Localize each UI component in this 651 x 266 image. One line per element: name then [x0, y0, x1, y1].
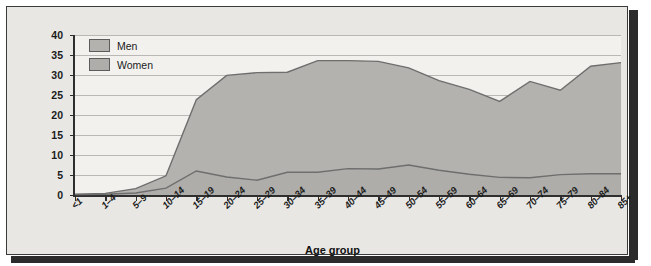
chart-legend: Men Women — [89, 39, 153, 77]
y-tick-label: 10 — [37, 149, 63, 161]
x-axis-title: Age group — [7, 244, 651, 256]
panel-shadow-bottom — [11, 256, 635, 263]
legend-label-women: Women — [117, 59, 153, 71]
y-tick-label: 35 — [37, 49, 63, 61]
chart-panel: Rates per 100,000 0510152025303540 <11–4… — [6, 6, 628, 255]
panel-shadow-right — [629, 10, 638, 260]
series-layer — [75, 35, 621, 195]
y-tick-label: 15 — [37, 129, 63, 141]
chart-figure: Rates per 100,000 0510152025303540 <11–4… — [0, 0, 651, 266]
y-tick-label: 0 — [37, 189, 63, 201]
y-tick-label: 40 — [37, 29, 63, 41]
plot-area — [73, 35, 621, 197]
legend-item-men[interactable]: Men — [89, 39, 153, 52]
y-tick-label: 30 — [37, 69, 63, 81]
legend-swatch-men — [89, 39, 110, 52]
y-tick-label: 25 — [37, 89, 63, 101]
legend-label-men: Men — [117, 40, 137, 52]
y-tick-label: 5 — [37, 169, 63, 181]
legend-item-women[interactable]: Women — [89, 58, 153, 71]
x-tick-label: <1 — [69, 195, 84, 210]
legend-swatch-women — [89, 58, 110, 71]
y-tick-label: 20 — [37, 109, 63, 121]
